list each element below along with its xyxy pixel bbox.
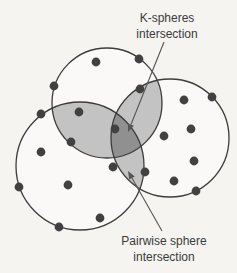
- data-point: [75, 108, 84, 117]
- pairwise-sphere-label-line2: intersection: [121, 250, 206, 266]
- data-point: [55, 223, 64, 232]
- data-point: [170, 177, 179, 186]
- data-point: [50, 82, 59, 91]
- pairwise-sphere-label-line1: Pairwise sphere: [121, 234, 206, 250]
- data-point: [136, 85, 145, 94]
- data-point: [37, 148, 46, 157]
- data-point: [208, 93, 217, 102]
- data-point: [160, 132, 169, 141]
- data-point: [37, 110, 46, 119]
- data-point: [109, 163, 118, 172]
- data-point: [92, 58, 101, 67]
- pairwise-sphere-label: Pairwise sphere intersection: [121, 234, 206, 265]
- data-point: [187, 125, 196, 134]
- data-point: [64, 181, 73, 190]
- data-point: [190, 157, 199, 166]
- data-point: [111, 125, 120, 134]
- data-point: [141, 168, 150, 177]
- venn-sphere-diagram: K-spheres intersection Pairwise sphere i…: [0, 0, 237, 273]
- data-point: [67, 138, 76, 147]
- k-spheres-label: K-spheres intersection: [136, 11, 197, 42]
- data-point: [180, 96, 189, 105]
- data-point: [135, 55, 144, 64]
- k-spheres-label-line1: K-spheres: [136, 11, 197, 27]
- data-point: [15, 183, 24, 192]
- data-point: [192, 187, 201, 196]
- k-spheres-label-line2: intersection: [136, 27, 197, 43]
- data-point: [96, 214, 105, 223]
- sphere-intersection-drawing: [0, 0, 237, 273]
